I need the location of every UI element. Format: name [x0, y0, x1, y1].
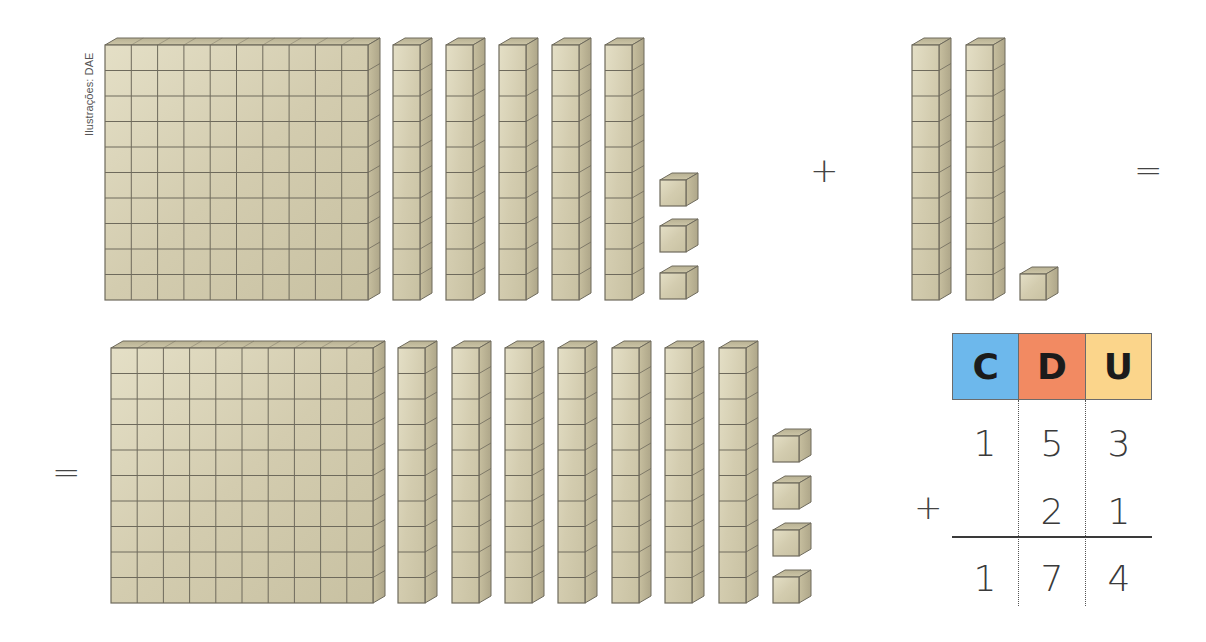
- addend1-ten-rod: [446, 38, 485, 300]
- header-hundreds: C: [953, 334, 1018, 399]
- addend1-hundred-flat: [105, 38, 380, 300]
- addend1-ten-rod: [605, 38, 644, 300]
- plus-operator-top: +: [810, 153, 839, 187]
- plus-operator-table: +: [914, 490, 943, 524]
- result-unit-cube: [773, 476, 811, 509]
- addend2-ten-rod: [966, 38, 1005, 300]
- base-ten-blocks-illustration: [0, 0, 1206, 642]
- addend1-unit-cube: [660, 173, 698, 206]
- result-ten-rod: [665, 341, 704, 603]
- addend2-ten-rod: [912, 38, 951, 300]
- result-unit-cube: [773, 429, 811, 462]
- place-value-table: C D U: [952, 333, 1152, 400]
- result-ten-rod: [452, 341, 491, 603]
- header-units: U: [1085, 334, 1151, 399]
- result-ten-rod: [612, 341, 651, 603]
- row1-units: 3: [1086, 426, 1152, 462]
- result-hundreds: 1: [952, 561, 1018, 597]
- illustration-credit: Ilustrações: DAE: [83, 52, 95, 136]
- result-hundred-flat: [111, 341, 385, 603]
- result-ten-rod: [558, 341, 597, 603]
- result-units: 4: [1086, 561, 1152, 597]
- addend1-ten-rod: [393, 38, 432, 300]
- addend1-unit-cube: [660, 266, 698, 299]
- result-ten-rod: [719, 341, 758, 603]
- place-value-header: C D U: [952, 333, 1152, 400]
- addend1-ten-rod: [552, 38, 591, 300]
- sum-line: [952, 536, 1152, 538]
- row2-units: 1: [1086, 494, 1152, 530]
- equals-operator-top: =: [1134, 153, 1163, 187]
- addend1-ten-rod: [499, 38, 538, 300]
- result-tens: 7: [1019, 561, 1085, 597]
- row1-hundreds: 1: [952, 426, 1018, 462]
- result-unit-cube: [773, 523, 811, 556]
- addend2-unit-cube: [1020, 267, 1058, 300]
- addend1-unit-cube: [660, 219, 698, 252]
- result-unit-cube: [773, 570, 811, 603]
- row1-tens: 5: [1019, 426, 1085, 462]
- row2-tens: 2: [1019, 494, 1085, 530]
- header-tens: D: [1018, 334, 1084, 399]
- result-ten-rod: [505, 341, 544, 603]
- equals-operator-bottom: =: [52, 455, 81, 489]
- result-ten-rod: [398, 341, 437, 603]
